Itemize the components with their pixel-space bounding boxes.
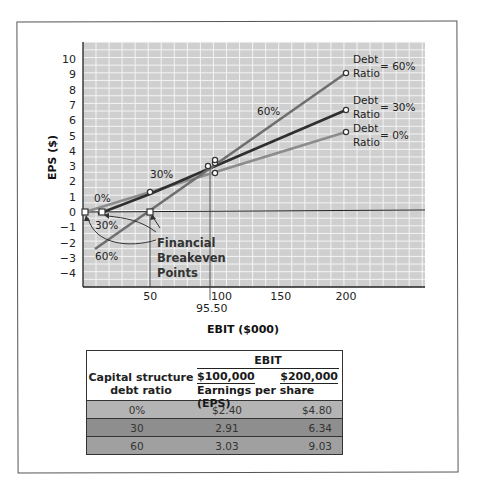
x-tick-labels: 50100150200 [143,290,356,303]
svg-text:−3: −3 [60,252,76,265]
label-30pct-upper: 30% [150,168,173,180]
svg-text:−2: −2 [60,237,76,250]
eps-table: Capital structure debt ratio EBIT $100,0… [86,350,343,455]
svg-text:8: 8 [69,84,76,97]
svg-text:Debt: Debt [353,53,378,65]
breakeven-label-2: Breakeven [157,251,226,265]
svg-text:9: 9 [69,68,76,81]
svg-text:3: 3 [69,160,76,173]
label-60pct-upper: 60% [257,105,280,117]
x-axis-title: EBIT ($000) [207,323,279,336]
svg-text:Debt: Debt [353,122,378,134]
svg-text:5: 5 [69,130,76,143]
svg-text:7: 7 [69,99,76,112]
svg-text:200: 200 [336,290,357,303]
group-header-ebit: EBIT [197,354,339,369]
col-header-debt-ratio: Capital structure debt ratio [87,371,195,397]
svg-text:Ratio: Ratio [353,67,380,79]
svg-text:10: 10 [62,53,76,66]
svg-text:= 60%: = 60% [380,60,415,72]
svg-text:= 0%: = 0% [380,129,409,141]
y-axis-title: EPS ($) [46,135,59,180]
breakeven-label-1: Financial [157,236,215,250]
svg-text:1: 1 [69,191,76,204]
x-marker-label: 95.50 [196,302,228,315]
sub-header-eps: Earnings per share (EPS) [197,384,342,410]
table-row: 603.039.03 [87,436,342,454]
svg-text:−4: −4 [60,267,76,280]
breakeven-label-3: Points [157,266,198,280]
svg-text:Ratio: Ratio [353,136,380,148]
label-0pct: 0% [94,192,111,204]
y-tick-labels: 109876543210−1−2−3−4 [60,53,76,280]
table-header: Capital structure debt ratio EBIT $100,0… [87,351,342,400]
svg-text:2: 2 [69,175,76,188]
svg-text:Debt: Debt [353,94,378,106]
label-30pct-lower: 30% [95,219,118,231]
svg-text:4: 4 [69,145,76,158]
svg-text:−1: −1 [60,221,76,234]
svg-text:Ratio: Ratio [353,108,380,120]
svg-text:50: 50 [143,290,157,303]
svg-text:150: 150 [270,290,291,303]
col-header-200k: $200,000 [280,370,338,384]
col-header-100k: $100,000 [197,370,255,384]
table-row: 302.916.34 [87,418,342,436]
svg-text:6: 6 [69,114,76,127]
svg-text:= 30%: = 30% [380,101,415,113]
label-60pct-lower: 60% [95,250,118,262]
svg-text:0: 0 [69,206,76,219]
